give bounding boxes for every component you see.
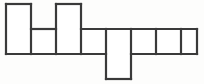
polyomino-net-diagram bbox=[0, 0, 204, 84]
cell-r2c4 bbox=[106, 54, 131, 79]
cell-r1c1 bbox=[31, 29, 56, 54]
cell-r1c6 bbox=[156, 29, 181, 54]
cell-r1c5 bbox=[131, 29, 156, 54]
cell-r0c0 bbox=[6, 4, 31, 29]
cell-r0c2 bbox=[56, 4, 81, 29]
cell-r1c0 bbox=[6, 29, 31, 54]
cell-r1c4 bbox=[106, 29, 131, 54]
cell-r1c3 bbox=[81, 29, 106, 54]
net-figure-container bbox=[0, 0, 204, 84]
cell-r1c7 bbox=[181, 29, 197, 54]
cell-r1c2 bbox=[56, 29, 81, 54]
